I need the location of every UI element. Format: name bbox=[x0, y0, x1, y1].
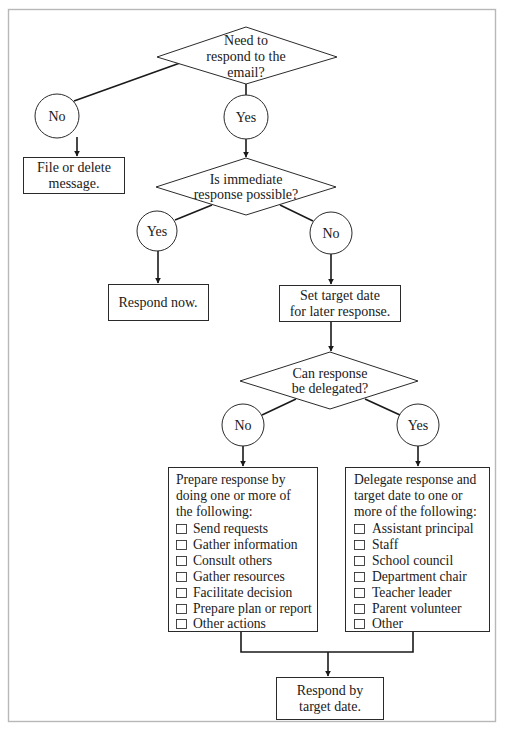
checkbox-icon bbox=[355, 589, 365, 598]
box-intro-line: target date to one or bbox=[354, 488, 463, 503]
box-intro-line: more of the following: bbox=[354, 504, 477, 519]
checkbox-icon bbox=[355, 605, 365, 614]
answer-no-delegate: No bbox=[222, 404, 264, 446]
checklist-item-label: Consult others bbox=[193, 553, 272, 568]
action-text-line: Set target date bbox=[300, 288, 380, 303]
box-intro-line: Prepare response by bbox=[176, 472, 286, 487]
checkbox-icon bbox=[177, 525, 187, 534]
answer-label: No bbox=[322, 226, 339, 241]
action-text-line: Respond by bbox=[297, 683, 364, 698]
checklist-item: Facilitate decision bbox=[177, 585, 293, 600]
checklist-item-label: Parent volunteer bbox=[372, 601, 462, 616]
checklist-item-label: Staff bbox=[372, 537, 399, 552]
answer-yes-immediate: Yes bbox=[137, 211, 177, 251]
checklist-item-label: Facilitate decision bbox=[193, 585, 292, 600]
decision-text-line: respond to the bbox=[206, 49, 285, 64]
checkbox-icon bbox=[355, 557, 365, 566]
checkbox-icon bbox=[177, 605, 187, 614]
checklist-item: Gather resources bbox=[177, 569, 285, 584]
action-text-line: Respond now. bbox=[118, 295, 197, 310]
action-prepare-response: Prepare response by doing one or more of… bbox=[169, 468, 318, 632]
answer-label: No bbox=[48, 109, 65, 124]
checklist-item-label: Other actions bbox=[193, 616, 266, 631]
decision-immediate: Is immediate response possible? bbox=[156, 158, 336, 215]
email-response-flowchart: Need to respond to the email? No Yes Fil… bbox=[0, 0, 505, 733]
action-text-line: message. bbox=[49, 176, 100, 191]
decision-text-line: email? bbox=[227, 65, 264, 80]
checkbox-icon bbox=[177, 541, 187, 550]
checklist-item-label: Department chair bbox=[372, 569, 467, 584]
checkbox-icon bbox=[355, 525, 365, 534]
checklist-item-label: Prepare plan or report bbox=[193, 601, 312, 616]
answer-yes-respond-needed: Yes bbox=[224, 95, 268, 139]
action-text-line: target date. bbox=[299, 699, 361, 714]
answer-label: Yes bbox=[408, 418, 428, 433]
action-text-line: File or delete bbox=[37, 160, 111, 175]
checklist-item-label: Send requests bbox=[193, 521, 268, 536]
checkbox-icon bbox=[355, 620, 365, 629]
action-text-line: for later response. bbox=[290, 304, 391, 319]
checklist-item: Assistant principal bbox=[355, 521, 474, 536]
checkbox-icon bbox=[177, 573, 187, 582]
checkbox-icon bbox=[177, 557, 187, 566]
checkbox-icon bbox=[355, 573, 365, 582]
checkbox-icon bbox=[177, 620, 187, 629]
checklist-item-label: Assistant principal bbox=[372, 521, 474, 536]
checklist-item-label: Gather information bbox=[193, 537, 298, 552]
decision-delegate: Can response be delegated? bbox=[240, 352, 418, 409]
box-intro-line: doing one or more of bbox=[176, 488, 291, 503]
answer-no-respond-needed: No bbox=[35, 94, 79, 138]
action-file-delete: File or delete message. bbox=[24, 158, 125, 194]
checklist-item: Gather information bbox=[177, 537, 298, 552]
checklist-item-label: Other bbox=[372, 616, 403, 631]
answer-label: Yes bbox=[236, 110, 256, 125]
box-intro-line: Delegate response and bbox=[354, 472, 476, 487]
answer-label: No bbox=[234, 418, 251, 433]
checklist-item: Prepare plan or report bbox=[177, 601, 313, 616]
action-respond-by-target-date: Respond by target date. bbox=[277, 678, 384, 720]
decision-text-line: Need to bbox=[224, 33, 268, 48]
decision-text-line: response possible? bbox=[194, 187, 299, 202]
decision-text-line: be delegated? bbox=[292, 381, 369, 396]
action-set-target-date: Set target date for later response. bbox=[280, 286, 401, 322]
checkbox-icon bbox=[355, 541, 365, 550]
checklist-item: Department chair bbox=[355, 569, 468, 584]
decision-text-line: Can response bbox=[292, 366, 367, 381]
action-delegate-response: Delegate response and target date to one… bbox=[346, 468, 490, 632]
answer-label: Yes bbox=[147, 224, 167, 239]
checklist-item-label: Teacher leader bbox=[372, 585, 452, 600]
answer-no-immediate: No bbox=[310, 212, 352, 254]
action-respond-now: Respond now. bbox=[109, 285, 209, 321]
checklist-item-label: School council bbox=[372, 553, 453, 568]
checklist-item-label: Gather resources bbox=[193, 569, 285, 584]
decision-respond-needed: Need to respond to the email? bbox=[157, 27, 337, 84]
box-intro-line: the following: bbox=[176, 504, 253, 519]
decision-text-line: Is immediate bbox=[210, 172, 283, 187]
checkbox-icon bbox=[177, 589, 187, 598]
answer-yes-delegate: Yes bbox=[397, 404, 439, 446]
